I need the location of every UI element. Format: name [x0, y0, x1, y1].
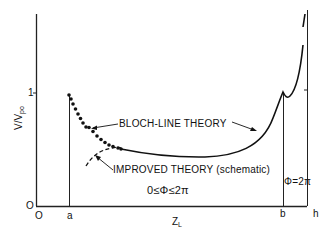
bloch-label-leader-right [232, 122, 254, 130]
x-tick-label-h: h [313, 209, 319, 219]
bloch-line-theory-label: BLOCH-LINE THEORY [119, 119, 227, 129]
phi-range-label: 0≤Φ≤2π [147, 185, 189, 196]
x-tick-label-a: a [67, 211, 73, 221]
y-tick-label-0: O [26, 201, 34, 211]
x-tick-label-0: O [35, 211, 43, 221]
y-axis-label: V/Vpo [14, 106, 25, 130]
improved-theory-label: IMPROVED THEORY (schematic) [113, 165, 270, 175]
bloch-line-curve [121, 45, 303, 157]
x-axis-label: ZL [172, 217, 182, 228]
arrowhead-icon [95, 155, 101, 161]
bloch-line-dots [67, 93, 123, 151]
chart-canvas [0, 0, 326, 233]
x-tick-label-b: b [280, 209, 286, 219]
arrowhead-icon [250, 127, 257, 131]
y-tick-label-1: 1 [28, 88, 34, 98]
phi-fixed-label: Φ=2π [284, 177, 311, 187]
bloch-line-tail [303, 14, 305, 27]
arrowhead-icon [91, 126, 97, 131]
